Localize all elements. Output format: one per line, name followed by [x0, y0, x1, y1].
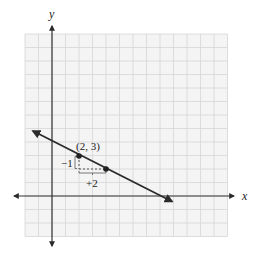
- grid-background: [25, 34, 228, 237]
- rise-label: −1: [61, 157, 73, 169]
- coordinate-plane: x y (2, 3) −1 +2: [0, 0, 257, 259]
- point-4-2: [103, 166, 109, 172]
- point-2-3: [76, 153, 82, 159]
- run-label: +2: [86, 177, 98, 189]
- y-axis-label: y: [48, 7, 55, 21]
- x-axis-label: x: [241, 189, 248, 203]
- point-label-2-3: (2, 3): [76, 140, 100, 153]
